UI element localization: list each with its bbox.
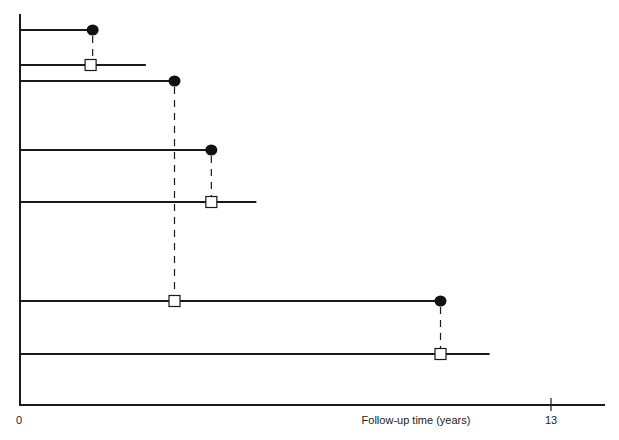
subject-row-1 — [20, 25, 99, 36]
matched-square-icon — [435, 349, 446, 360]
event-dot-icon — [435, 296, 447, 307]
matched-square-icon — [206, 197, 217, 208]
subject-row-6 — [20, 296, 447, 307]
matched-square-icon — [85, 60, 96, 71]
matched-square-icon — [169, 296, 180, 307]
subject-rows — [20, 25, 490, 360]
subject-row-2 — [20, 60, 146, 71]
event-dot-icon — [205, 145, 217, 156]
x-axis-title: Follow-up time (years) — [362, 414, 471, 426]
event-dot-icon — [169, 76, 181, 87]
subject-row-7 — [20, 349, 490, 360]
event-dot-icon — [87, 25, 99, 36]
subject-row-4 — [20, 145, 217, 156]
timeline-chart: 0 13 Follow-up time (years) — [0, 0, 619, 440]
subject-row-3 — [20, 76, 181, 87]
x-tick-label-0: 0 — [16, 414, 22, 426]
x-tick-label-13: 13 — [545, 414, 557, 426]
subject-row-5 — [20, 197, 256, 208]
